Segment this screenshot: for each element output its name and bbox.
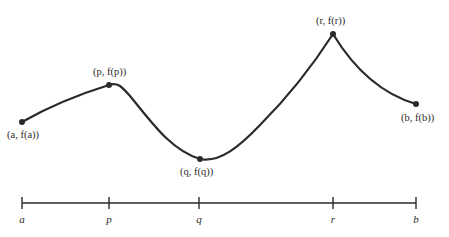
axis-label-a: a	[19, 213, 25, 225]
function-curve	[22, 34, 416, 160]
axis-label-p: p	[105, 213, 112, 225]
label-point-p: (p, f(p))	[93, 66, 127, 78]
point-p	[106, 82, 112, 88]
point-b	[413, 101, 419, 107]
axis-label-q: q	[196, 213, 202, 225]
axis-label-r: r	[331, 213, 336, 225]
point-a	[19, 119, 25, 125]
function-diagram: (a, f(a)) (p, f(p)) (q, f(q)) (r, f(r)) …	[0, 0, 449, 237]
axis-label-b: b	[413, 213, 419, 225]
label-point-b: (b, f(b))	[401, 112, 435, 124]
label-point-q: (q, f(q))	[180, 166, 214, 178]
point-r	[330, 31, 336, 37]
label-point-r: (r, f(r))	[316, 15, 346, 27]
point-q	[197, 156, 203, 162]
label-point-a: (a, f(a))	[7, 129, 40, 141]
